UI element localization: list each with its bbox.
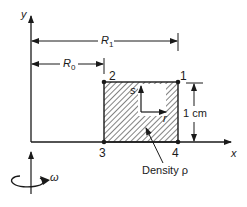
x-axis-label: x [231,148,237,159]
node-2 [102,80,107,85]
node-1-label: 1 [180,70,187,82]
r0-label-main: R [63,57,71,69]
r0-label-sub: 0 [71,63,75,72]
node-3-label: 3 [99,147,106,159]
r1-label-main: R [101,34,109,46]
node-2-label: 2 [109,70,116,82]
local-axes [138,84,166,116]
node-4-label: 4 [172,147,179,159]
s-axis-label: s [130,85,136,96]
node-4 [176,140,181,145]
r1-label-sub: 1 [109,40,113,49]
omega-label: ω [50,172,59,183]
y-axis-label: y [21,9,27,20]
node-3 [102,140,107,145]
axisymmetric-element-diagram [0,0,247,207]
r-axis-label: r [163,113,167,124]
density-label: Density ρ [142,165,188,176]
r0-label: R0 [63,58,75,72]
height-label: 1 cm [183,108,207,119]
rotation-omega-icon [12,152,50,194]
r1-label: R1 [101,35,113,49]
